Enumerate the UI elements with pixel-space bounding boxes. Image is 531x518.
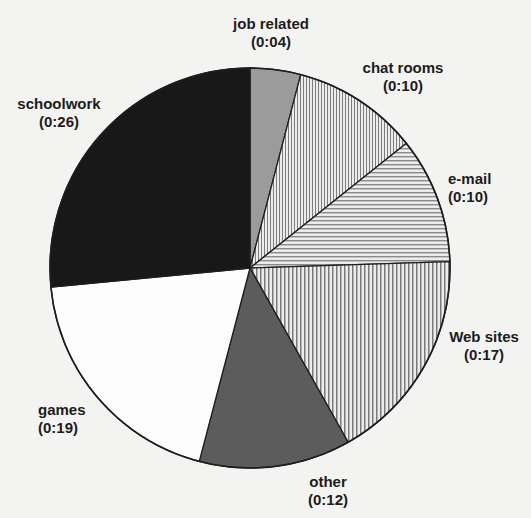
pie-slices [50,68,450,468]
label-other: other (0:12) [308,473,348,509]
label-web-sites: Web sites (0:17) [449,328,519,364]
pie-chart [0,0,531,518]
label-name: games [38,401,86,419]
label-games: games (0:19) [38,401,86,437]
label-value: (0:12) [308,491,348,509]
label-value: (0:10) [448,188,491,206]
label-name: schoolwork [17,95,100,113]
label-value: (0:17) [449,346,519,364]
label-email: e-mail (0:10) [448,170,491,206]
label-name: job related [233,15,309,33]
label-value: (0:19) [38,419,86,437]
label-name: Web sites [449,328,519,346]
label-name: chat rooms [363,59,444,77]
label-value: (0:04) [233,33,309,51]
label-value: (0:26) [17,113,100,131]
label-value: (0:10) [363,77,444,95]
label-name: other [308,473,348,491]
label-job-related: job related (0:04) [233,15,309,51]
label-schoolwork: schoolwork (0:26) [17,95,100,131]
label-name: e-mail [448,170,491,188]
label-chat-rooms: chat rooms (0:10) [363,59,444,95]
